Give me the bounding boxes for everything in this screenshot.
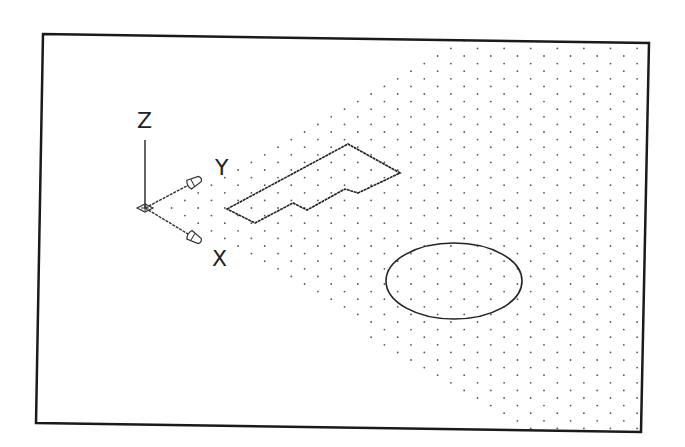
x-arrowhead-icon <box>186 230 204 246</box>
z-axis-label: Z <box>137 108 152 133</box>
y-axis-label: Y <box>214 155 229 180</box>
ellipse[interactable] <box>386 243 522 319</box>
snap-grid-dots <box>171 40 638 429</box>
y-arrowhead-icon <box>185 174 203 190</box>
closed-polyline[interactable] <box>227 144 400 223</box>
ucs-icon: Z Y X <box>137 108 229 271</box>
drawing-viewport[interactable]: Z Y X <box>0 0 685 447</box>
x-axis-label: X <box>212 246 227 271</box>
